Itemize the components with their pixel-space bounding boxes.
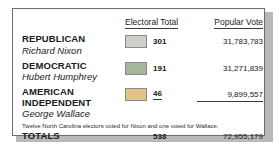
totals-popular-value: 72,955,179 [223,132,263,141]
popular-cell-republican: 31,783,783 [197,34,263,46]
popular-cell-democratic: 31,271,839 [197,61,263,73]
table-row: AMERICAN INDEPENDENT George Wallace 46 9… [22,87,258,119]
electoral-total-value: 191 [153,64,166,73]
header-popular-vote-label: Popular Vote [214,17,263,29]
electoral-cell-democratic: 191 [125,61,197,75]
popular-cell-american-independent: 9,899,557 [197,87,263,102]
party-name: REPUBLICAN [22,34,125,45]
electoral-cell-republican: 301 [125,34,197,48]
party-name-line2: INDEPENDENT [22,98,125,109]
candidate-name: Richard Nixon [22,45,125,56]
candidate-name: Hubert Humphrey [22,71,125,82]
party-cell-american-independent: AMERICAN INDEPENDENT George Wallace [22,87,125,119]
table-row: DEMOCRATIC Hubert Humphrey 191 31,271,83… [22,61,258,83]
table-row: REPUBLICAN Richard Nixon 301 31,783,783 [22,34,258,56]
popular-vote-value: 31,271,839 [197,61,263,73]
color-swatch-democratic [125,62,147,75]
election-results-figure: Electoral Total Popular Vote REPUBLICAN … [0,0,279,153]
color-swatch-republican [125,35,147,48]
header-electoral-total-label: Electoral Total [125,17,178,29]
party-cell-republican: REPUBLICAN Richard Nixon [22,34,125,56]
totals-label: TOTALS [22,130,60,141]
popular-vote-value: 9,899,557 [197,87,263,102]
electoral-total-value: 301 [153,37,166,46]
totals-electoral-value: 538 [125,132,166,141]
party-name-line1: AMERICAN [22,87,125,98]
results-table-frame: Electoral Total Popular Vote REPUBLICAN … [12,8,265,136]
table-footnote: Twelve North Carolina electors voted for… [22,122,219,130]
electoral-total-value: 46 [153,89,162,100]
header-electoral-total: Electoral Total [125,11,197,29]
electoral-cell-american-independent: 46 [125,87,197,101]
party-cell-democratic: DEMOCRATIC Hubert Humphrey [22,61,125,83]
header-popular-vote: Popular Vote [197,11,263,29]
table-header-row: Electoral Total Popular Vote [22,14,258,29]
color-swatch-american-independent [125,88,147,101]
results-table: Electoral Total Popular Vote REPUBLICAN … [13,9,264,135]
candidate-name: George Wallace [22,108,125,119]
party-name: DEMOCRATIC [22,61,125,72]
popular-vote-value: 31,783,783 [197,34,263,46]
